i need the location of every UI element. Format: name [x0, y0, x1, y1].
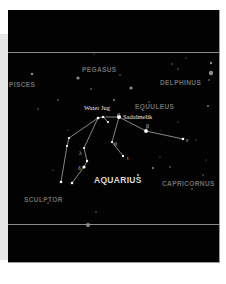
constellation-label-delphinus: DELPHINUS	[160, 80, 201, 87]
constellation-label-aquarius: AQUARIUS	[94, 176, 142, 185]
greek-label-iota: ι	[127, 155, 129, 161]
constellation-label-pisces: PISCES	[9, 82, 35, 89]
constellation-figure	[8, 10, 219, 262]
constellation-label-capricornus: CAPRICORNUS	[162, 181, 215, 188]
greek-label-alpha: α	[117, 111, 120, 117]
greek-label-delta: δ	[78, 165, 81, 171]
star-chart-panel: PEGASUS PISCES DELPHINUS EQUULEUS CAPRIC…	[8, 10, 220, 263]
greek-label-beta: β	[146, 123, 149, 129]
constellation-label-pegasus: PEGASUS	[82, 67, 117, 74]
side-strip	[0, 34, 8, 260]
greek-label-epsilon: ε	[186, 137, 189, 143]
star-label-water-jug: Water Jug	[84, 105, 110, 112]
greek-label-theta: θ	[114, 141, 117, 147]
constellation-label-sculptor: SCULPTOR	[24, 197, 63, 204]
constellation-label-equuleus: EQUULEUS	[135, 104, 174, 111]
greek-label-lambda: λ	[79, 150, 82, 156]
star-label-sadalmelik: Sadalmelik	[123, 114, 152, 121]
